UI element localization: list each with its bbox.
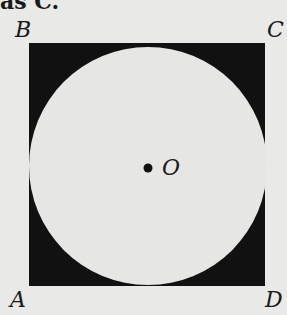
label-vertex-b: B xyxy=(15,19,31,41)
center-point-o xyxy=(144,164,153,173)
label-vertex-c: C xyxy=(267,19,284,41)
label-vertex-d: D xyxy=(265,289,283,311)
label-vertex-a: A xyxy=(10,289,26,311)
geometry-figure xyxy=(0,0,287,315)
label-center-o: O xyxy=(162,157,180,179)
